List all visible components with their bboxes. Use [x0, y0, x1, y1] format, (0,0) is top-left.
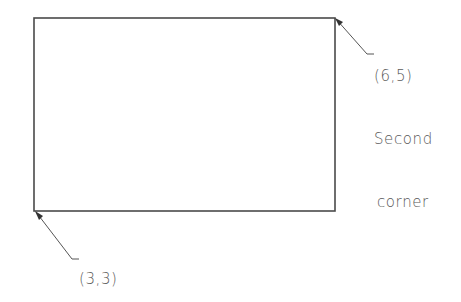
- second-corner-leader: [335, 18, 374, 54]
- second-corner-text-line2: corner: [374, 192, 433, 213]
- rectangle: [34, 18, 335, 211]
- second-corner-text-line1: Second: [374, 129, 433, 150]
- first-corner-label: (3,3) First corner: [79, 227, 131, 302]
- arrowhead-icon: [35, 211, 43, 220]
- first-corner-leader: [35, 211, 79, 259]
- second-corner-coordinate: (6,5): [374, 66, 433, 87]
- second-corner-label: (6,5) Second corner: [374, 24, 433, 234]
- first-corner-coordinate: (3,3): [79, 269, 131, 290]
